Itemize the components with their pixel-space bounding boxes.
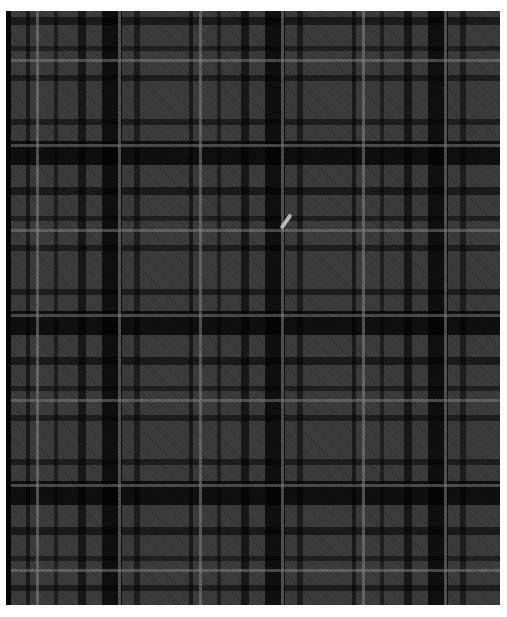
tartan-fabric <box>6 11 500 605</box>
fabric-left-edge <box>6 11 11 605</box>
twill-texture <box>6 11 500 605</box>
